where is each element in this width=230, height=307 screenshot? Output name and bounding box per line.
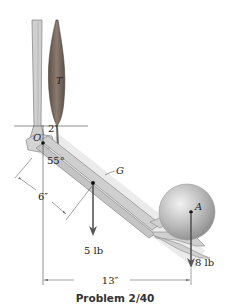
ball [159,184,215,240]
center-of-gravity-point [91,181,95,185]
muscle-offset-label: 2″ [48,123,58,134]
pivot-label: O [33,132,41,143]
forearm-weight-label: 5 lb [84,245,103,256]
humerus-bone [30,20,44,138]
angle-label: 55° [47,155,65,166]
horizontal-distance-label: 13″ [102,275,119,286]
arm-statics-diagram: T 2″ O 55° 6″ G 5 lb A [0,0,230,307]
pivot-point-o [41,141,45,145]
forearm-cg-distance-label: 6″ [38,191,48,202]
center-of-gravity-label: G [116,165,124,176]
ball-point-a [189,210,193,214]
figure-caption: Problem 2/40 [76,292,155,304]
ball-weight-label: 8 lb [195,257,214,268]
ball-point-label: A [194,201,202,212]
